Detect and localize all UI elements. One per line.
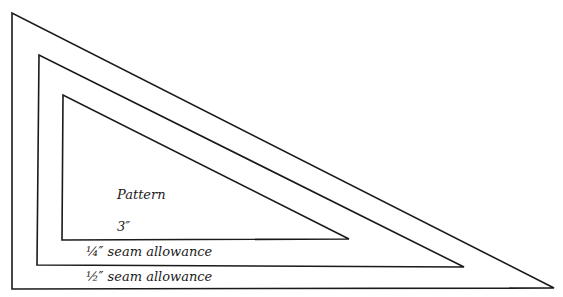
dimension-label: 3″	[117, 220, 130, 233]
half-inch-seam-label: ½″ seam allowance	[86, 270, 212, 283]
pattern-label: Pattern	[117, 188, 166, 201]
triangle-pattern-diagram	[0, 0, 563, 297]
quarter-inch-seam-label: ¼″ seam allowance	[86, 245, 212, 258]
inner-triangle-pattern	[62, 95, 349, 240]
middle-triangle-quarter-inch-seam	[37, 55, 464, 267]
